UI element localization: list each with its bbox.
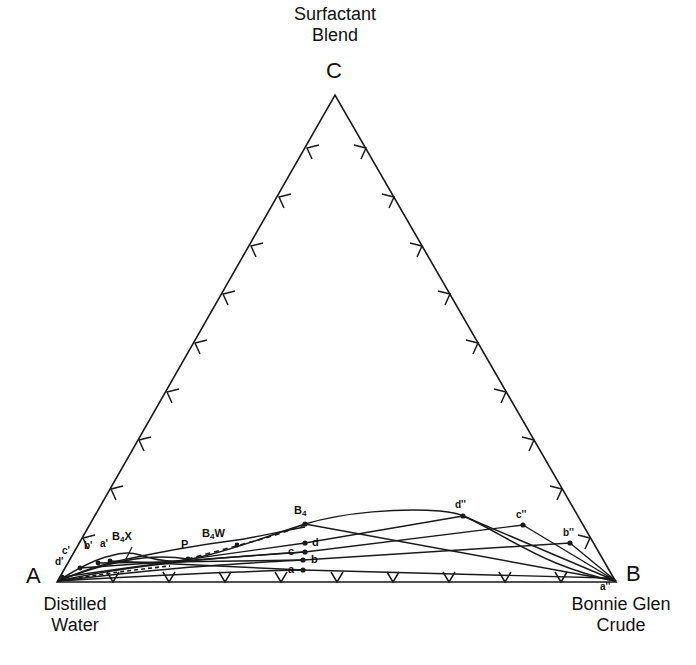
marker-p	[186, 557, 191, 562]
right-vertex-letter: B	[626, 561, 641, 587]
marker-c	[302, 549, 307, 554]
label-b4w: B4W	[202, 528, 225, 542]
marker-d	[302, 540, 307, 545]
left-edge-ticks	[83, 145, 319, 549]
label-b4x-text: B4X	[112, 530, 132, 542]
ternary-plot-svg	[0, 0, 696, 665]
label-b-prime: b'	[84, 540, 93, 551]
label-d-prime: d'	[55, 556, 64, 567]
marker-d-prime	[60, 575, 65, 580]
label-c-dprime: c''	[516, 509, 526, 520]
marker-b4w	[235, 543, 240, 548]
label-a-dprime: a''	[600, 581, 610, 592]
label-d-dprime: d''	[455, 499, 466, 510]
label-b4-text: B4	[294, 504, 306, 516]
apex-vertex-title: Surfactant Blend	[232, 4, 438, 46]
right-edge-ticks	[354, 145, 590, 549]
marker-c-prime	[78, 566, 83, 571]
triangle-outline	[57, 95, 616, 582]
marker-b	[300, 557, 305, 562]
label-b4w-text: B4W	[202, 527, 225, 539]
marker-b-dprime	[567, 540, 572, 545]
marker-b4	[302, 521, 307, 526]
label-p: P	[181, 539, 188, 550]
apex-vertex-letter: C	[326, 58, 342, 84]
bottom-edge-ticks	[107, 572, 567, 582]
label-a: a	[288, 564, 294, 575]
tie-line-a-left	[110, 561, 303, 570]
marker-a-prime	[108, 559, 113, 564]
marker-d-dprime	[460, 513, 465, 518]
marker-b-prime	[96, 561, 101, 566]
label-a-prime: a'	[100, 538, 108, 549]
marker-a-dprime	[606, 576, 611, 581]
label-c: c	[288, 546, 294, 557]
right-vertex-title: Bonnie Glen Crude	[546, 594, 696, 636]
label-b4x: B4X	[112, 531, 132, 545]
ternary-diagram: Surfactant Blend C A Distilled Water B B…	[0, 0, 696, 665]
label-d: d	[312, 537, 319, 548]
label-b-dprime: b''	[563, 527, 574, 538]
left-vertex-title: Distilled Water	[0, 594, 150, 636]
marker-c-dprime	[520, 522, 525, 527]
label-b4: B4	[294, 505, 306, 519]
triangle-border	[57, 95, 616, 582]
label-c-prime: c'	[62, 545, 70, 556]
label-b: b	[311, 554, 318, 565]
marker-a	[300, 567, 305, 572]
left-vertex-letter: A	[26, 563, 41, 589]
